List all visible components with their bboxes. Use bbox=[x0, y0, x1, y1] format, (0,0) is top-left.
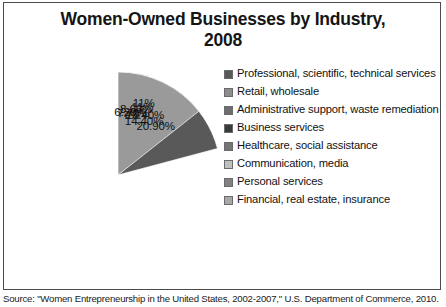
legend-item[interactable]: Financial, real estate, insurance bbox=[224, 193, 441, 208]
legend-item-label: Communication, media bbox=[237, 157, 348, 170]
legend-item-label: Professional, scientific, technical serv… bbox=[237, 67, 436, 80]
chart-container: Women-Owned Businesses by Industry, 2008… bbox=[3, 2, 441, 290]
figure-caption: Source: "Women Entrepreneurship in the U… bbox=[3, 293, 443, 304]
legend-swatch-icon bbox=[224, 70, 233, 79]
chart-title-line-1: Women-Owned Businesses by Industry, bbox=[18, 9, 428, 30]
pie-chart-svg bbox=[12, 65, 224, 287]
legend-swatch-icon bbox=[224, 124, 233, 133]
legend-item-label: Financial, real estate, insurance bbox=[237, 193, 390, 206]
legend-item[interactable]: Personal services bbox=[224, 175, 441, 190]
legend-item-label: Administrative support, waste remediatio… bbox=[237, 103, 439, 116]
legend-item[interactable]: Business services bbox=[224, 121, 441, 136]
chart-title-line-2: 2008 bbox=[18, 30, 428, 51]
chart-legend: Professional, scientific, technical serv… bbox=[224, 67, 441, 211]
legend-swatch-icon bbox=[224, 142, 233, 151]
legend-item[interactable]: Retail, wholesale bbox=[224, 85, 441, 100]
pie-chart: 20.90%13.40%11%11%8.60%7.70%7%6.20%14.40… bbox=[12, 65, 224, 287]
legend-swatch-icon bbox=[224, 88, 233, 97]
legend-item[interactable]: Professional, scientific, technical serv… bbox=[224, 67, 441, 82]
legend-swatch-icon bbox=[224, 196, 233, 205]
legend-item-label: Retail, wholesale bbox=[237, 85, 319, 98]
legend-item[interactable]: Communication, media bbox=[224, 157, 441, 172]
chart-title: Women-Owned Businesses by Industry, 2008 bbox=[18, 9, 428, 52]
legend-item-label: Business services bbox=[237, 121, 324, 134]
legend-swatch-icon bbox=[224, 106, 233, 115]
legend-item-label: Personal services bbox=[237, 175, 323, 188]
pie-slice-label: 14.40% bbox=[125, 115, 163, 127]
legend-item[interactable]: Administrative support, waste remediatio… bbox=[224, 103, 441, 118]
legend-swatch-icon bbox=[224, 160, 233, 169]
legend-item-label: Healthcare, social assistance bbox=[237, 139, 378, 152]
legend-swatch-icon bbox=[224, 178, 233, 187]
legend-item[interactable]: Healthcare, social assistance bbox=[224, 139, 441, 154]
